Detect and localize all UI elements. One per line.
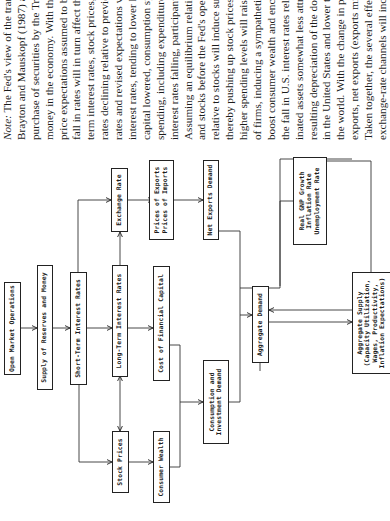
note-line: Note: The Fed's view of the trans [1, 0, 15, 140]
box-label: Cost of Financial Capital [158, 274, 165, 373]
box-label-line: Inflation Expectations) [379, 278, 386, 369]
note-line: and stocks before the Fed's open [195, 0, 209, 140]
box-consumer-wealth: Consumer Wealth [153, 431, 170, 503]
note-line: thereby pushing up stock prices. P [223, 0, 237, 140]
box-consumption-and-investment-demand: Consumption and Investment Demand [203, 360, 229, 444]
box-label: Net Exports Demand [207, 164, 214, 235]
note-line: rates declining relative to previous [98, 0, 112, 140]
note-line: money in the economy. With the s [43, 0, 57, 140]
note-line: interest rates falling, participants [168, 0, 182, 140]
note-text: The Fed's view of the trans [1, 0, 13, 115]
box-label: Stock Prices [117, 438, 124, 485]
note-line: relative to stocks will induce substit [209, 0, 223, 140]
box-cost-of-financial-capital: Cost of Financial Capital [153, 266, 170, 381]
rotated-page: Open Market Operations Supply of Reserve… [0, 0, 390, 521]
note-line: fall in rates will in turn affect the p [70, 0, 84, 140]
box-exchange-rate: Exchange Rate [111, 168, 128, 232]
note-label: Note: [1, 115, 13, 140]
note-line: price expectations assumed to be co [57, 0, 71, 140]
note-line: purchase of securities by the Tradi [29, 0, 43, 140]
box-short-term-interest-rates: Short-Term Interest Rates [70, 272, 87, 385]
note-line: exports, net exports (exports minu [348, 0, 362, 140]
note-line: in the United States and lower the [320, 0, 334, 140]
box-label: Exchange Rate [116, 174, 123, 225]
box-label: Supply of Reserves and Money [41, 272, 48, 383]
note-line: of firms, inducing a sympathetic ri [251, 0, 265, 140]
note-line: Brayton and Mauskopf (1987) and [15, 0, 29, 140]
box-label: Consumer Wealth [158, 437, 165, 496]
note-line: Assuming an equilibrium relationsh [182, 0, 196, 140]
box-label: Long-Term Interest Rates [116, 274, 123, 369]
box-stock-prices: Stock Prices [112, 431, 129, 493]
note-line: inated assets somewhat less attrac [293, 0, 307, 140]
box-gnp-inflation-unemployment: Real GNP Growth Inflation Rate Unemploym… [293, 157, 327, 245]
box-label-line: Unemployment Rate [314, 167, 321, 234]
box-label: Aggregate Demand [257, 293, 264, 356]
box-label: Open Market Operations [9, 285, 16, 372]
box-label: Short-Term Interest Rates [75, 279, 82, 378]
note-line: spending, including expenditures o [154, 0, 168, 140]
note-line: the fall in U.S. interest rates relati [279, 0, 293, 140]
box-label-line: Prices of Imports [162, 166, 169, 233]
box-label-line: Investment Demand [216, 368, 223, 435]
note-line: rates and revised expectations wil [112, 0, 126, 140]
note-line: higher spending levels will raise th [237, 0, 251, 140]
box-open-market-operations: Open Market Operations [4, 282, 21, 375]
box-net-exports-demand: Net Exports Demand [203, 160, 219, 240]
note-line: interest rates, tending to lower long [126, 0, 140, 140]
note-line: term interest rates, stock prices, an [84, 0, 98, 140]
note-line: the world. With the change in pr [334, 0, 348, 140]
box-aggregate-supply: Aggregate Supply (Capacity Utilization, … [352, 272, 390, 374]
box-long-term-interest-rates: Long-Term Interest Rates [112, 265, 128, 377]
box-supply-of-reserves-and-money: Supply of Reserves and Money [37, 265, 53, 390]
box-prices-of-exports-imports: Prices of Exports Prices of Imports [149, 160, 174, 240]
figure-note: Note: The Fed's view of the trans Brayto… [0, 0, 390, 140]
box-aggregate-demand: Aggregate Demand [252, 286, 269, 363]
note-line: Taken together, the several effect [362, 0, 376, 140]
note-line: resulting depreciation of the dollar [307, 0, 321, 140]
note-line: capital lowered, consumption spend [140, 0, 154, 140]
note-line: exchange-rate channels will increa [376, 0, 390, 140]
note-line: boost consumer wealth and encoura [265, 0, 279, 140]
